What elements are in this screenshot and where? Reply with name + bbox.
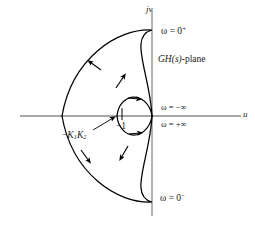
plane-label: GH(s)-plane (158, 55, 206, 65)
gain-point-k2-subscript: 2 (83, 133, 86, 140)
nyquist-plot-figure: jv u ω = 0+ GH(s)-plane ω = −∞ ω = +∞ ω … (0, 0, 255, 232)
omega-zero-minus-label: ω = 0− (160, 193, 185, 203)
plane-label-prefix: GH (158, 54, 172, 64)
arrow-outer-upper-right-icon (116, 76, 124, 88)
direction-arrows (81, 62, 140, 161)
horizontal-axis-label: u (243, 110, 248, 119)
outer-upper-arc (62, 30, 152, 116)
gain-point-label: −K1K2 (62, 131, 87, 141)
arrow-outer-lower-right-icon (121, 146, 128, 158)
omega-zero-minus-text: ω = 0 (160, 193, 181, 203)
arrow-inner-loop-top-icon (128, 98, 139, 99)
omega-zero-plus-text: ω = 0 (161, 26, 182, 36)
plot-canvas (0, 0, 255, 232)
vertical-axis-label: jv (146, 5, 153, 14)
arrow-outer-lower-left-icon (81, 150, 89, 161)
plane-label-arg: (s) (172, 54, 182, 64)
omega-zero-plus-superscript: + (182, 25, 186, 32)
outer-lower-arc (62, 116, 152, 202)
omega-plus-infinity-label: ω = +∞ (161, 120, 187, 129)
plane-label-suffix: -plane (182, 54, 206, 64)
arrow-outer-upper-left-icon (90, 62, 101, 70)
critical-point-label: −1 (116, 122, 126, 132)
gain-point-leader-line (93, 118, 113, 130)
omega-minus-infinity-label: ω = −∞ (161, 103, 187, 112)
omega-zero-plus-label: ω = 0+ (161, 26, 186, 36)
omega-zero-minus-superscript: − (181, 192, 185, 199)
